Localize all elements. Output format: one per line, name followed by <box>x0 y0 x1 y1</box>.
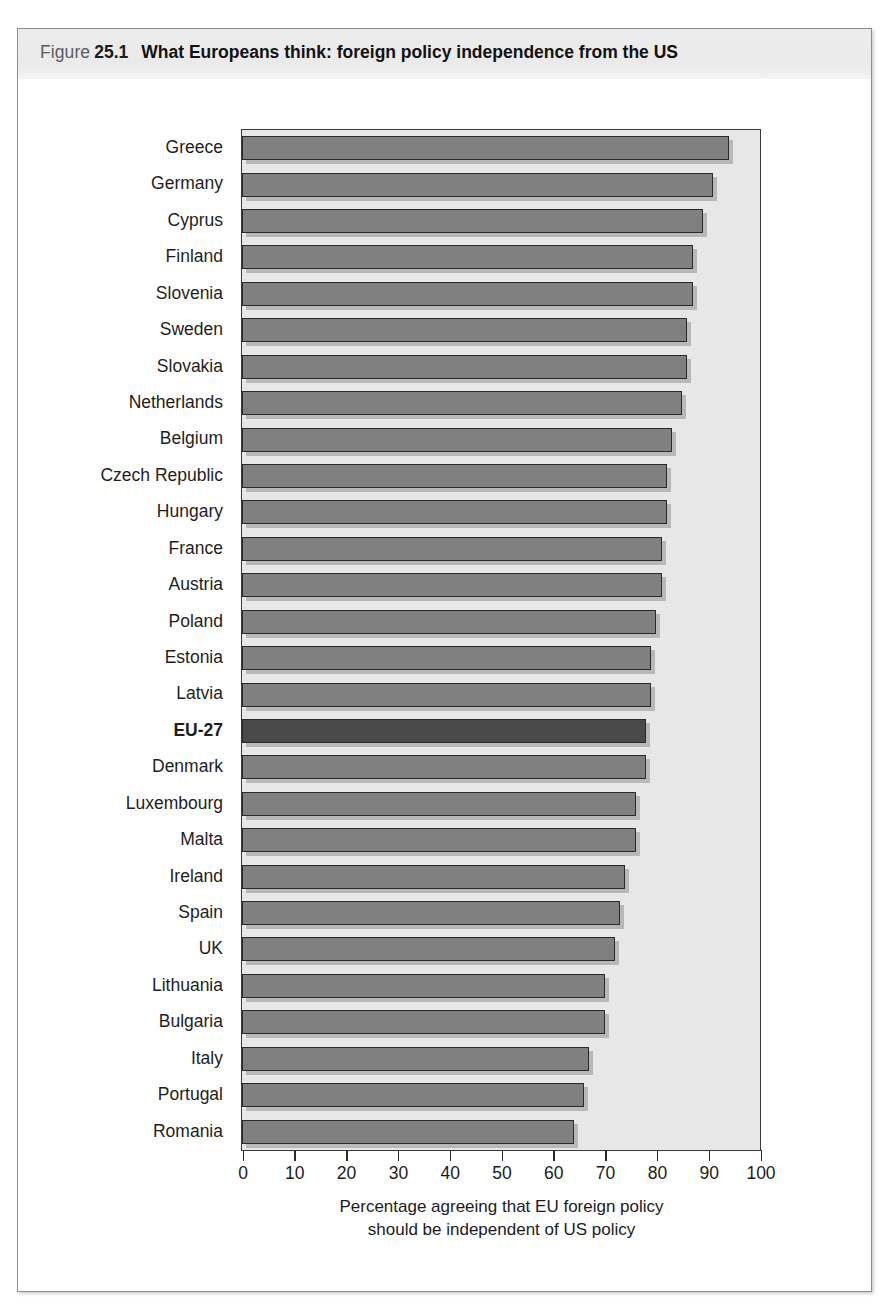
bar-italy[interactable] <box>242 1047 589 1071</box>
axis-tick <box>605 1150 607 1161</box>
bar-uk[interactable] <box>242 937 615 961</box>
category-label-finland: Finland <box>166 238 223 274</box>
axis-tick <box>346 1150 348 1161</box>
bar-cyprus[interactable] <box>242 209 703 233</box>
bar-portugal[interactable] <box>242 1083 584 1107</box>
bar-row <box>242 640 760 676</box>
bar-finland[interactable] <box>242 245 693 269</box>
bar-row <box>242 676 760 712</box>
bar-latvia[interactable] <box>242 683 651 707</box>
bar-spain[interactable] <box>242 901 620 925</box>
category-label-austria: Austria <box>169 566 223 602</box>
bar-sweden[interactable] <box>242 318 687 342</box>
bar-netherlands[interactable] <box>242 391 682 415</box>
category-label-sweden: Sweden <box>160 311 223 347</box>
bar-chart: GreeceGermanyCyprusFinlandSloveniaSweden… <box>18 79 871 1292</box>
bar-row <box>242 713 760 749</box>
bar-eu-27[interactable] <box>242 719 646 743</box>
bar-row <box>242 385 760 421</box>
category-axis-labels: GreeceGermanyCyprusFinlandSloveniaSweden… <box>18 129 233 1149</box>
bar-row <box>242 822 760 858</box>
bar-row <box>242 749 760 785</box>
bar-row <box>242 603 760 639</box>
value-axis-title: Percentage agreeing that EU foreign poli… <box>241 1196 762 1242</box>
category-label-germany: Germany <box>151 165 223 201</box>
axis-tick <box>243 1150 245 1161</box>
bar-slovenia[interactable] <box>242 282 693 306</box>
bar-denmark[interactable] <box>242 755 646 779</box>
category-label-netherlands: Netherlands <box>129 384 223 420</box>
bar-bulgaria[interactable] <box>242 1010 605 1034</box>
category-label-latvia: Latvia <box>176 675 223 711</box>
bar-row <box>242 1041 760 1077</box>
bar-lithuania[interactable] <box>242 974 605 998</box>
figure-title: What Europeans think: foreign policy ind… <box>141 42 678 62</box>
bar-row <box>242 421 760 457</box>
figure-caption: Figure25.1What Europeans think: foreign … <box>40 42 678 63</box>
axis-tick-label-90: 90 <box>699 1163 718 1184</box>
bar-row <box>242 239 760 275</box>
axis-tick <box>761 1150 763 1161</box>
bar-row <box>242 276 760 312</box>
axis-tick <box>398 1150 400 1161</box>
axis-tick-label-10: 10 <box>285 1163 304 1184</box>
category-label-estonia: Estonia <box>165 639 223 675</box>
axis-tick-label-0: 0 <box>238 1163 248 1184</box>
category-label-denmark: Denmark <box>152 748 223 784</box>
category-label-lithuania: Lithuania <box>152 967 223 1003</box>
bar-greece[interactable] <box>242 136 729 160</box>
bar-czech-republic[interactable] <box>242 464 667 488</box>
bar-romania[interactable] <box>242 1120 574 1144</box>
bar-poland[interactable] <box>242 610 656 634</box>
bar-row <box>242 1113 760 1149</box>
bar-row <box>242 858 760 894</box>
category-label-france: France <box>169 530 223 566</box>
bar-row <box>242 203 760 239</box>
bar-ireland[interactable] <box>242 865 625 889</box>
figure-label: Figure <box>40 42 90 62</box>
bar-estonia[interactable] <box>242 646 651 670</box>
axis-tick-label-60: 60 <box>544 1163 563 1184</box>
bar-row <box>242 1004 760 1040</box>
bar-row <box>242 531 760 567</box>
bar-germany[interactable] <box>242 173 713 197</box>
category-label-greece: Greece <box>166 129 223 165</box>
bar-row <box>242 494 760 530</box>
category-label-portugal: Portugal <box>158 1076 223 1112</box>
category-label-hungary: Hungary <box>157 493 223 529</box>
value-axis: 0102030405060708090100 <box>241 1150 762 1190</box>
axis-tick-label-50: 50 <box>492 1163 511 1184</box>
category-label-ireland: Ireland <box>169 858 223 894</box>
axis-tick <box>657 1150 659 1161</box>
category-label-romania: Romania <box>153 1113 223 1149</box>
bar-austria[interactable] <box>242 573 662 597</box>
bar-row <box>242 349 760 385</box>
bar-luxembourg[interactable] <box>242 792 636 816</box>
axis-tick <box>709 1150 711 1161</box>
category-label-poland: Poland <box>169 603 224 639</box>
category-label-malta: Malta <box>180 821 223 857</box>
bar-france[interactable] <box>242 537 662 561</box>
axis-tick-label-30: 30 <box>389 1163 408 1184</box>
category-label-eu-27: EU-27 <box>173 712 223 748</box>
bar-hungary[interactable] <box>242 500 667 524</box>
bar-slovakia[interactable] <box>242 355 687 379</box>
bar-row <box>242 458 760 494</box>
bar-row <box>242 931 760 967</box>
bar-belgium[interactable] <box>242 428 672 452</box>
figure-container: Figure25.1What Europeans think: foreign … <box>17 28 872 1292</box>
bar-row <box>242 968 760 1004</box>
bar-row <box>242 312 760 348</box>
axis-tick-label-80: 80 <box>648 1163 667 1184</box>
bar-malta[interactable] <box>242 828 636 852</box>
figure-header-band: Figure25.1What Europeans think: foreign … <box>18 29 871 79</box>
value-axis-title-line1: Percentage agreeing that EU foreign poli… <box>241 1196 762 1219</box>
axis-tick <box>502 1150 504 1161</box>
category-label-czech-republic: Czech Republic <box>100 457 223 493</box>
figure-number: 25.1 <box>94 42 128 62</box>
axis-tick <box>553 1150 555 1161</box>
bar-row <box>242 895 760 931</box>
axis-tick-label-70: 70 <box>596 1163 615 1184</box>
axis-tick-label-40: 40 <box>440 1163 459 1184</box>
category-label-italy: Italy <box>191 1040 223 1076</box>
